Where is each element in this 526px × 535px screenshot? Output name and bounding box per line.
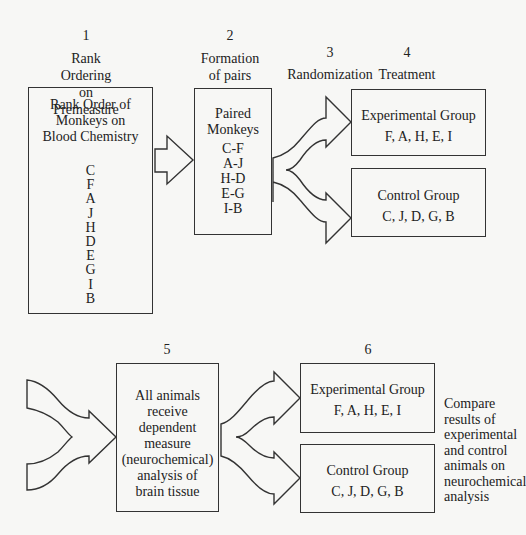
compare-results-text: Compare results of experimental and cont… [444,396,526,505]
rank-item: B [29,292,152,306]
group-members: F, A, H, E, I [352,129,485,145]
step-2-label: 2 Formation of pairs [190,27,270,84]
pair-item: H-D [195,171,271,186]
title-line: Monkeys [195,122,271,138]
rank-item: G [29,263,152,277]
title-line: Paired [195,106,271,122]
text-line: and control [444,443,526,459]
pairs-box-title: Paired Monkeys [195,106,271,138]
step-6-label: 6 [348,341,388,358]
title-line: Monkeys on [29,113,152,129]
rank-order-box: Rank Order of Monkeys on Blood Chemistry… [28,87,153,314]
step-title-line: Randomization [280,66,380,83]
step-number: 2 [190,27,270,44]
group-members: C, J, D, G, B [352,209,485,225]
result-control-group-box: Control Group C, J, D, G, B [300,444,435,513]
text-line: All animals [117,388,218,404]
split-arrow-icon [273,97,351,243]
text-line: Compare [444,396,526,412]
step-number: 6 [348,341,388,358]
rank-item: I [29,278,152,292]
step-number: 4 [367,44,447,61]
text-line: (neurochemical) [117,452,218,468]
rank-item: C [29,164,152,178]
group-members: C, J, D, G, B [301,484,434,500]
group-title: Control Group [352,188,485,204]
step-title-line: Rank Ordering [46,50,126,84]
measure-text: All animals receive dependent measure (n… [117,388,218,500]
right-arrow-icon [155,136,193,184]
group-members: F, A, H, E, I [301,403,434,419]
rank-item: A [29,192,152,206]
rank-item: H [29,221,152,235]
pair-item: I-B [195,201,271,216]
text-line: measure [117,436,218,452]
result-experimental-group-box: Experimental Group F, A, H, E, I [300,363,435,433]
split-arrow-icon [221,372,300,504]
rank-item: D [29,235,152,249]
step-number: 5 [147,341,187,358]
step-3-label: 3 Randomization [280,44,380,83]
text-line: brain tissue [117,484,218,500]
pairs-list: C-F A-J H-D E-G I-B [195,141,271,216]
treatment-control-group-box: Control Group C, J, D, G, B [351,168,486,237]
treatment-experimental-group-box: Experimental Group F, A, H, E, I [351,89,486,156]
step-title-line: Formation [190,50,270,67]
step-title-line: of pairs [190,67,270,84]
pair-item: E-G [195,186,271,201]
text-line: neurochemical [444,474,526,490]
title-line: Blood Chemistry [29,129,152,145]
group-title: Experimental Group [301,382,434,398]
rank-box-title: Rank Order of Monkeys on Blood Chemistry [29,97,152,145]
group-title: Control Group [301,463,434,479]
rank-item: J [29,207,152,221]
text-line: results of [444,412,526,428]
text-line: analysis of [117,468,218,484]
step-4-label: 4 Treatment [367,44,447,83]
pair-item: A-J [195,156,271,171]
text-line: experimental [444,427,526,443]
text-line: analysis [444,489,526,505]
group-title: Experimental Group [352,108,485,124]
step-number: 1 [46,27,126,44]
text-line: receive [117,404,218,420]
rank-item: F [29,178,152,192]
pair-item: C-F [195,141,271,156]
text-line: dependent [117,420,218,436]
step-5-label: 5 [147,341,187,358]
rank-order-list: C F A J H D E G I B [29,164,152,306]
rank-item: E [29,249,152,263]
dependent-measure-box: All animals receive dependent measure (n… [116,363,219,512]
step-title-line: Treatment [367,66,447,83]
paired-monkeys-box: Paired Monkeys C-F A-J H-D E-G I-B [194,88,272,235]
step-number: 3 [280,44,380,61]
merge-arrow-icon [27,380,116,490]
title-line: Rank Order of [29,97,152,113]
text-line: animals on [444,458,526,474]
